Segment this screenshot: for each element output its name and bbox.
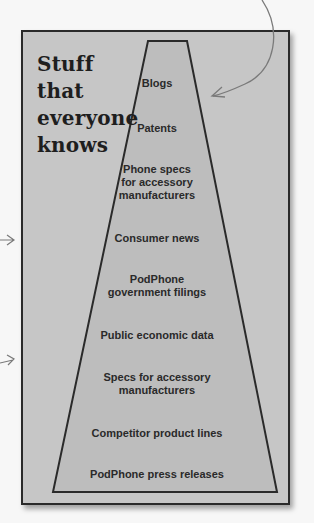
pyramid-item-public-economic-data: Public economic data: [0, 329, 314, 342]
left-arrow-icon-lower: [0, 355, 14, 365]
title-line-3: knows: [37, 132, 147, 159]
pyramid-item-competitor-lines: Competitor product lines: [0, 427, 314, 440]
pyramid-item-blogs: Blogs: [0, 77, 314, 90]
pyramid-item-patents: Patents: [0, 122, 314, 135]
pyramid-item-government-filings: PodPhone government filings: [0, 273, 314, 299]
pyramid-item-press-releases: PodPhone press releases: [0, 468, 314, 481]
diagram-canvas: Stuff that everyone knows Blogs Patents …: [0, 0, 314, 523]
pyramid-item-specs-accessory: Specs for accessory manufacturers: [0, 371, 314, 397]
pyramid-item-phone-specs: Phone specs for accessory manufacturers: [0, 163, 314, 202]
pyramid-item-consumer-news: Consumer news: [0, 232, 314, 245]
section-title: Stuff that everyone knows: [37, 51, 147, 159]
